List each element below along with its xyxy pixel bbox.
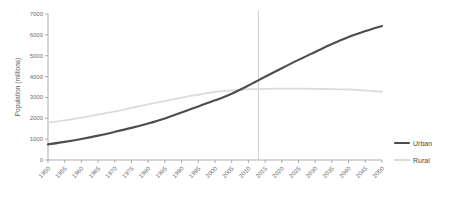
legend-label-rural: Rural <box>413 157 430 164</box>
y-tick-label: 3000 <box>30 94 44 100</box>
x-tick-label: 2035 <box>321 165 335 179</box>
y-tick-label: 5000 <box>30 53 44 59</box>
x-tick-label: 1965 <box>88 165 102 179</box>
x-tick-label: 2045 <box>355 165 369 179</box>
y-tick-label: 4000 <box>30 74 44 80</box>
x-tick-label: 2020 <box>271 165 285 179</box>
y-tick-label: 2000 <box>30 115 44 121</box>
series-line-rural <box>48 89 382 123</box>
y-tick-label: 7000 <box>30 11 44 17</box>
x-tick-label: 2015 <box>255 165 269 179</box>
y-axis-label: Population (millions) <box>14 58 22 117</box>
x-tick-label: 1985 <box>154 165 168 179</box>
x-tick-label: 1980 <box>138 165 152 179</box>
x-tick-label: 2000 <box>205 165 219 179</box>
y-tick-label: 1000 <box>30 136 44 142</box>
y-tick-label: 0 <box>40 157 44 163</box>
x-axis: 1950195519601965197019751980198519901995… <box>38 160 386 179</box>
x-tick-label: 2040 <box>338 165 352 179</box>
y-axis: 01000200030004000500060007000 <box>30 11 48 163</box>
y-axis-title: Population (millions) <box>14 58 22 117</box>
x-tick-label: 1955 <box>54 165 68 179</box>
x-tick-label: 2010 <box>238 165 252 179</box>
chart-canvas: 01000200030004000500060007000 1950195519… <box>0 0 452 199</box>
x-tick-label: 1990 <box>171 165 185 179</box>
x-tick-label: 2025 <box>288 165 302 179</box>
x-tick-label: 1975 <box>121 165 135 179</box>
legend-label-urban: Urban <box>413 140 432 147</box>
x-tick-label: 2005 <box>221 165 235 179</box>
x-tick-label: 2050 <box>372 165 386 179</box>
series-group <box>48 26 382 144</box>
x-tick-label: 1970 <box>104 165 118 179</box>
chart-legend: UrbanRural <box>395 140 432 164</box>
x-tick-label: 1960 <box>71 165 85 179</box>
series-line-urban <box>48 26 382 144</box>
y-tick-label: 6000 <box>30 32 44 38</box>
x-tick-label: 1950 <box>38 165 52 179</box>
x-tick-label: 2030 <box>305 165 319 179</box>
x-tick-label: 1995 <box>188 165 202 179</box>
population-line-chart: 01000200030004000500060007000 1950195519… <box>0 0 452 199</box>
